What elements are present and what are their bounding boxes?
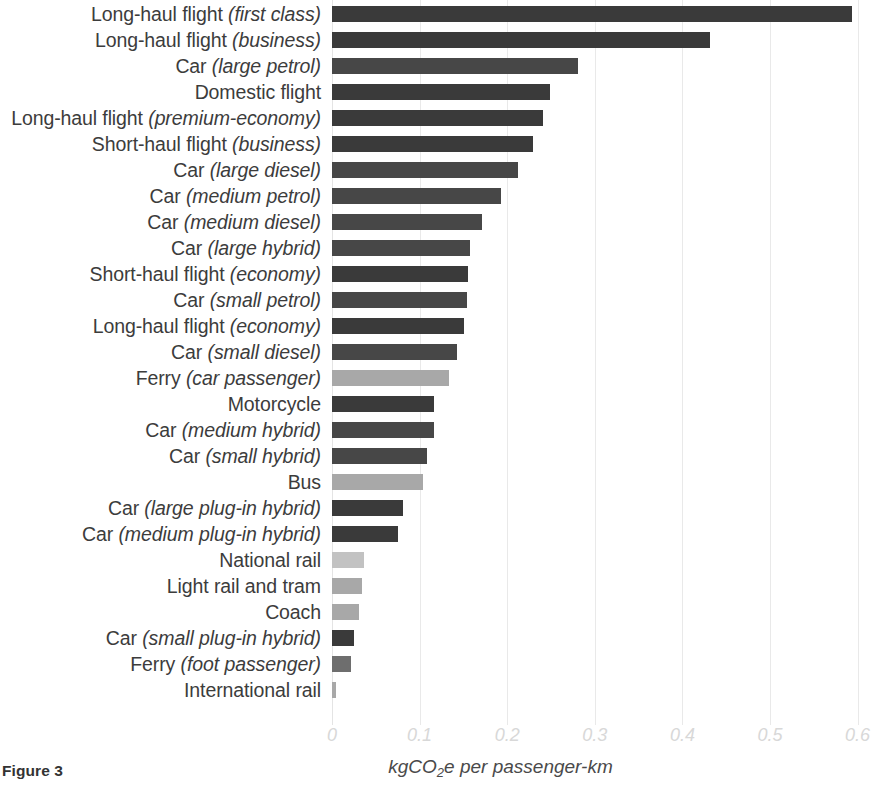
bar <box>332 526 398 542</box>
figure-3-chart: Long-haul flight (first class)Long-haul … <box>0 0 871 785</box>
category-label-qualifier: (large plug-in hybrid) <box>144 497 321 519</box>
chart-row: Short-haul flight (economy) <box>0 261 871 287</box>
bar <box>332 266 468 282</box>
category-label: National rail <box>0 550 330 570</box>
bar-track <box>330 625 871 651</box>
bar-track <box>330 261 871 287</box>
bar <box>332 188 501 204</box>
x-tick-label: 0.3 <box>582 725 607 746</box>
bar-track <box>330 365 871 391</box>
category-label-qualifier: (medium plug-in hybrid) <box>118 523 321 545</box>
bar-track <box>330 79 871 105</box>
chart-row: Bus <box>0 469 871 495</box>
category-label: Light rail and tram <box>0 576 330 596</box>
category-label: Car (large plug-in hybrid) <box>0 498 330 518</box>
bar-track <box>330 391 871 417</box>
category-label-main: Short-haul flight <box>92 133 232 155</box>
category-label: Car (large hybrid) <box>0 238 330 258</box>
bar <box>332 110 543 126</box>
category-label-qualifier: (small diesel) <box>208 341 321 363</box>
bar-track <box>330 599 871 625</box>
category-label-qualifier: (car passenger) <box>186 367 321 389</box>
category-label-main: National rail <box>219 549 321 571</box>
bar-track <box>330 469 871 495</box>
chart-row: Long-haul flight (first class) <box>0 1 871 27</box>
chart-row: Domestic flight <box>0 79 871 105</box>
category-label: Motorcycle <box>0 394 330 414</box>
bar <box>332 214 482 230</box>
x-tick-label: 0.5 <box>757 725 782 746</box>
category-label: Car (small diesel) <box>0 342 330 362</box>
category-label: Car (small petrol) <box>0 290 330 310</box>
category-label: Car (medium diesel) <box>0 212 330 232</box>
chart-row: Car (large plug-in hybrid) <box>0 495 871 521</box>
bar-track <box>330 1 871 27</box>
category-label: Car (large diesel) <box>0 160 330 180</box>
bar-track <box>330 27 871 53</box>
category-label-main: Long-haul flight <box>95 29 232 51</box>
category-label-qualifier: (small hybrid) <box>205 445 321 467</box>
bar-track <box>330 287 871 313</box>
chart-row: Car (large diesel) <box>0 157 871 183</box>
bar <box>332 448 427 464</box>
chart-row: Car (medium petrol) <box>0 183 871 209</box>
category-label-main: Car <box>82 523 118 545</box>
bar <box>332 136 533 152</box>
category-label-main: Car <box>169 445 205 467</box>
chart-row: Car (small diesel) <box>0 339 871 365</box>
bar <box>332 292 467 308</box>
bar-track <box>330 131 871 157</box>
plot-area: Long-haul flight (first class)Long-haul … <box>0 0 871 742</box>
bar <box>332 422 434 438</box>
chart-row: Motorcycle <box>0 391 871 417</box>
category-label-main: Car <box>108 497 144 519</box>
bar-track <box>330 417 871 443</box>
bar <box>332 552 364 568</box>
bar <box>332 240 470 256</box>
category-label-main: Car <box>173 289 209 311</box>
bar <box>332 630 354 646</box>
category-label-qualifier: (economy) <box>230 263 321 285</box>
category-label: Car (small hybrid) <box>0 446 330 466</box>
x-tick-label: 0.6 <box>845 725 870 746</box>
chart-row: Car (medium diesel) <box>0 209 871 235</box>
bar <box>332 578 362 594</box>
category-label-main: Motorcycle <box>228 393 321 415</box>
category-label-qualifier: (business) <box>232 133 321 155</box>
bar-track <box>330 677 871 703</box>
bar-track <box>330 235 871 261</box>
category-label-qualifier: (large hybrid) <box>208 237 321 259</box>
category-label-main: Bus <box>288 471 321 493</box>
category-label-main: Car <box>106 627 142 649</box>
category-label-qualifier: (medium hybrid) <box>182 419 321 441</box>
category-label: Bus <box>0 472 330 492</box>
category-label: Car (medium plug-in hybrid) <box>0 524 330 544</box>
bar-track <box>330 443 871 469</box>
chart-row: Ferry (car passenger) <box>0 365 871 391</box>
chart-row: Car (medium hybrid) <box>0 417 871 443</box>
category-label: Ferry (car passenger) <box>0 368 330 388</box>
x-tick-label: 0 <box>327 725 337 746</box>
bar-track <box>330 183 871 209</box>
chart-row: Coach <box>0 599 871 625</box>
category-label-main: Car <box>173 159 209 181</box>
bar-track <box>330 495 871 521</box>
bar <box>332 500 403 516</box>
category-label: Coach <box>0 602 330 622</box>
bar <box>332 6 852 22</box>
category-label: Long-haul flight (business) <box>0 30 330 50</box>
bar-track <box>330 339 871 365</box>
category-label-qualifier: (large petrol) <box>212 55 321 77</box>
category-label-main: International rail <box>184 679 321 701</box>
category-label-qualifier: (medium petrol) <box>186 185 321 207</box>
x-tick-label: 0.2 <box>495 725 520 746</box>
bar-track <box>330 313 871 339</box>
bar-track <box>330 547 871 573</box>
category-label: Car (medium hybrid) <box>0 420 330 440</box>
bar-track <box>330 651 871 677</box>
category-label-main: Car <box>171 341 207 363</box>
bar <box>332 58 578 74</box>
category-label-main: Ferry <box>136 367 186 389</box>
x-axis-title-main: kgCO <box>388 756 437 777</box>
chart-row: Light rail and tram <box>0 573 871 599</box>
